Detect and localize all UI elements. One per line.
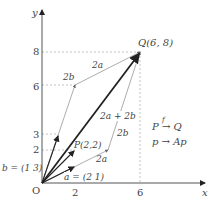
x-axis-label: x xyxy=(202,188,208,198)
vector-b-label: b = (1 3) xyxy=(2,163,42,173)
point-p-label: P(2,2) xyxy=(74,140,101,150)
origin-label: O xyxy=(32,186,40,196)
y-tick-2: 2 xyxy=(33,145,39,155)
label-2b-left: 2b xyxy=(63,72,75,82)
label-sum: 2a + 2b xyxy=(100,111,136,121)
mapping-symbol: f xyxy=(162,115,165,125)
vector-a-label: a = (2 1) xyxy=(64,172,104,182)
y-tick-3: 3 xyxy=(33,130,39,140)
label-2a-bottom: 2a xyxy=(96,154,107,164)
vector-diagram: y x O 2 6 8 6 3 2 Q(6, 8) P(2,2) 2a 2b 2… xyxy=(0,0,215,202)
mapping-line-1: P → Q xyxy=(152,122,182,132)
y-axis-label: y xyxy=(32,8,38,18)
y-tick-8: 8 xyxy=(33,47,39,57)
y-tick-6: 6 xyxy=(33,82,39,92)
label-2b-right: 2b xyxy=(117,128,129,138)
x-tick-6: 6 xyxy=(137,188,143,198)
mapping-line-2: p → Ap xyxy=(152,137,187,147)
point-q-label: Q(6, 8) xyxy=(138,38,173,48)
x-tick-2: 2 xyxy=(72,188,78,198)
label-2a-top: 2a xyxy=(92,60,103,70)
